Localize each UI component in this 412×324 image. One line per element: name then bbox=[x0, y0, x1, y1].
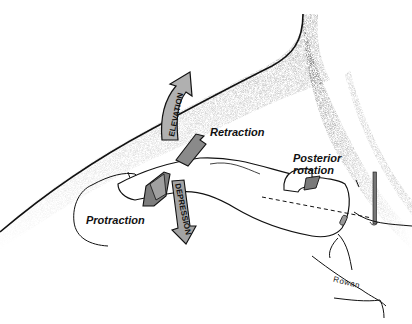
posterior-rotation-label-line2: rotation bbox=[293, 164, 334, 176]
diagram-canvas: ELEVATION DEPRESSION Retraction Protract… bbox=[0, 0, 412, 324]
shoulder-illustration: ELEVATION DEPRESSION bbox=[0, 0, 412, 324]
posterior-rotation-label-line1: Posterior bbox=[293, 152, 341, 164]
sternal-pin bbox=[373, 172, 377, 224]
retraction-label: Retraction bbox=[210, 126, 264, 138]
protraction-label: Protraction bbox=[86, 214, 145, 226]
shoulder-shading bbox=[0, 14, 412, 250]
